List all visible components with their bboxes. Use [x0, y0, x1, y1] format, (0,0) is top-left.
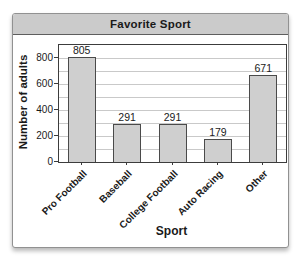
- y-tick-label: 400: [17, 104, 53, 115]
- x-tick-mark: [126, 162, 127, 165]
- x-tick-mark: [172, 162, 173, 165]
- y-tick-mark: [54, 161, 58, 162]
- bar: [113, 124, 141, 162]
- x-tick-mark: [81, 162, 82, 165]
- plot-area: 805291291179671: [58, 44, 287, 163]
- y-tick-label: 200: [17, 130, 53, 141]
- y-tick-mark: [54, 109, 58, 110]
- bar-value-label: 291: [153, 112, 193, 123]
- bar-value-label: 291: [107, 112, 147, 123]
- screenshot-root: { "widget": { "title": "Favorite Sport" …: [0, 0, 301, 265]
- y-tick-label: 0: [17, 156, 53, 167]
- y-tick-mark: [54, 83, 58, 84]
- y-tick-label: 800: [17, 52, 53, 63]
- chart-card: Favorite Sport Number of adults 80529129…: [12, 13, 289, 248]
- y-tick-label: 600: [17, 78, 53, 89]
- chart-title: Favorite Sport: [13, 14, 288, 35]
- x-tick-mark: [262, 162, 263, 165]
- bar-value-label: 179: [198, 127, 238, 138]
- y-tick-mark: [54, 135, 58, 136]
- bar: [159, 124, 187, 162]
- bar-value-label: 671: [243, 63, 283, 74]
- bar: [204, 139, 232, 162]
- bar: [68, 57, 96, 162]
- bar-value-label: 805: [62, 45, 102, 56]
- x-tick-mark: [217, 162, 218, 165]
- y-tick-mark: [54, 57, 58, 58]
- bar: [249, 75, 277, 162]
